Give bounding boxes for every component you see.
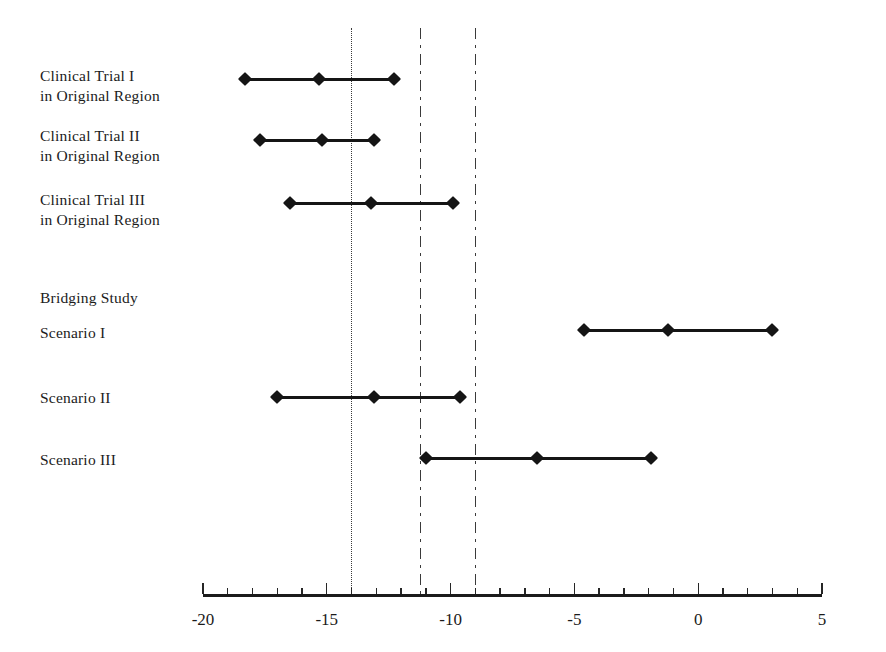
x-tick-neg2 xyxy=(648,588,649,594)
x-axis xyxy=(203,594,822,597)
marker-lower xyxy=(577,323,591,337)
x-tick-label-neg5: -5 xyxy=(544,610,604,630)
x-tick-neg11 xyxy=(425,588,426,594)
x-tick-neg20 xyxy=(202,583,203,594)
x-tick-neg17 xyxy=(277,588,278,594)
row-label-clinical-trial-2: Clinical Trial II in Original Region xyxy=(40,126,160,166)
series-clinical-trial-2 xyxy=(252,133,382,147)
x-tick-neg16 xyxy=(301,588,302,594)
x-tick-neg5 xyxy=(574,583,575,594)
marker-lower xyxy=(419,451,433,465)
marker-estimate xyxy=(364,196,378,210)
x-tick-neg13 xyxy=(376,588,377,594)
row-label-bridging-study: Bridging Study xyxy=(40,288,138,308)
marker-lower xyxy=(238,72,252,86)
marker-estimate xyxy=(312,72,326,86)
reference-line-dashdot-left xyxy=(420,28,421,594)
x-tick-label-neg15: -15 xyxy=(297,610,357,630)
x-tick-neg14 xyxy=(351,588,352,594)
x-tick-1 xyxy=(722,588,723,594)
marker-lower xyxy=(283,196,297,210)
x-tick-label-neg10: -10 xyxy=(421,610,481,630)
x-tick-label-neg20: -20 xyxy=(173,610,233,630)
row-label-scenario-3: Scenario III xyxy=(40,450,116,470)
x-tick-neg3 xyxy=(623,588,624,594)
marker-estimate xyxy=(367,390,381,404)
x-tick-neg9 xyxy=(475,588,476,594)
x-tick-2 xyxy=(747,588,748,594)
series-clinical-trial-3 xyxy=(282,196,461,210)
x-tick-neg8 xyxy=(499,588,500,594)
marker-estimate xyxy=(661,323,675,337)
x-tick-0 xyxy=(698,583,699,594)
marker-upper xyxy=(367,133,381,147)
marker-upper xyxy=(387,72,401,86)
x-tick-4 xyxy=(797,588,798,594)
marker-estimate xyxy=(530,451,544,465)
x-tick-neg12 xyxy=(400,588,401,594)
series-clinical-trial-1 xyxy=(237,72,402,86)
marker-upper xyxy=(453,390,467,404)
forest-plot: Clinical Trial I in Original Region Clin… xyxy=(0,0,886,652)
x-tick-neg4 xyxy=(598,588,599,594)
x-tick-5 xyxy=(821,583,822,594)
x-tick-label-5: 5 xyxy=(792,610,852,630)
x-tick-neg1 xyxy=(673,588,674,594)
x-tick-neg7 xyxy=(524,588,525,594)
marker-upper xyxy=(765,323,779,337)
series-bridging-study-scenario-1 xyxy=(576,323,780,337)
x-tick-neg15 xyxy=(326,583,327,594)
row-label-clinical-trial-1: Clinical Trial I in Original Region xyxy=(40,66,160,106)
series-bridging-study-scenario-2 xyxy=(269,390,468,404)
reference-line-dashdot-right xyxy=(475,28,476,594)
x-tick-neg18 xyxy=(252,588,253,594)
x-tick-neg10 xyxy=(450,583,451,594)
row-label-scenario-1: Scenario I xyxy=(40,323,105,343)
interval-line xyxy=(584,329,772,332)
row-label-scenario-2: Scenario II xyxy=(40,388,111,408)
marker-upper xyxy=(446,196,460,210)
series-bridging-study-scenario-3 xyxy=(418,451,659,465)
marker-lower xyxy=(270,390,284,404)
marker-estimate xyxy=(315,133,329,147)
x-tick-neg19 xyxy=(227,588,228,594)
marker-upper xyxy=(644,451,658,465)
x-tick-label-0: 0 xyxy=(668,610,728,630)
x-tick-neg6 xyxy=(549,588,550,594)
row-label-clinical-trial-3: Clinical Trial III in Original Region xyxy=(40,190,160,230)
marker-lower xyxy=(253,133,267,147)
x-tick-3 xyxy=(772,588,773,594)
reference-line-dotted xyxy=(351,28,352,594)
